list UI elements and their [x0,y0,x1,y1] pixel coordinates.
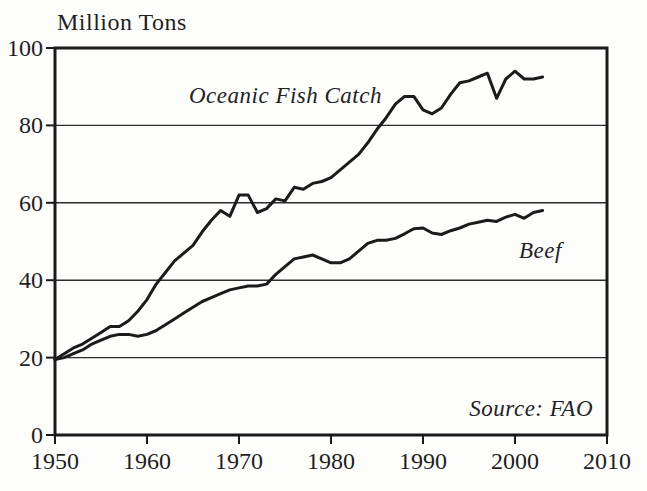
x-axis-tick-label-1960: 1960 [123,448,171,474]
y-axis-tick-label-40: 40 [19,267,43,293]
series-label-beef: Beef [519,238,562,264]
x-axis-tick-label-2010: 2010 [583,448,631,474]
series-label-oceanic-fish-catch: Oceanic Fish Catch [189,83,382,109]
fish-beef-chart-figure: 0204060801001950196019701980199020002010… [0,0,647,491]
y-axis-tick-label-60: 60 [19,190,43,216]
x-axis-tick-label-1990: 1990 [399,448,447,474]
x-axis-tick-label-1980: 1980 [307,448,355,474]
y-axis-tick-label-80: 80 [19,112,43,138]
y-axis-tick-label-20: 20 [19,345,43,371]
y-axis-tick-label-100: 100 [7,35,43,61]
chart-title: Million Tons [57,9,187,36]
x-axis-tick-label-1970: 1970 [215,448,263,474]
y-axis-tick-label-0: 0 [31,422,43,448]
x-axis-tick-label-2000: 2000 [491,448,539,474]
source-label: Source: FAO [469,396,593,422]
x-axis-tick-label-1950: 1950 [31,448,79,474]
series-line-oceanic-fish-catch [55,71,543,359]
series-line-beef [55,211,543,360]
